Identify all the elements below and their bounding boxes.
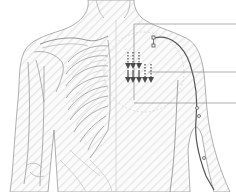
acupoint	[198, 115, 201, 118]
acupoint	[196, 107, 199, 110]
acupoint	[152, 36, 155, 39]
acupoint	[203, 157, 206, 160]
acupoint	[152, 44, 155, 47]
anatomy-svg	[0, 0, 236, 192]
anatomy-figure	[0, 0, 236, 192]
